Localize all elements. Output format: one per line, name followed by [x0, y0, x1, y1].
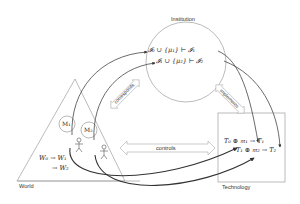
technology-formula-1: T₀ ⊕ 𝔪₁ → T₁: [224, 137, 264, 145]
mental-model-2-label: M₂: [84, 126, 93, 133]
world-label: World: [19, 183, 34, 189]
arc-person1-to-institution: [72, 52, 147, 135]
diagram-canvas: [0, 0, 300, 204]
technology-formula-2: T₁ ⊕ 𝔪₂ → T₂: [236, 146, 276, 154]
arc-person2-to-institution: [94, 63, 155, 140]
institution-world-technology-diagram: Institution World Technology 𝓘₀ ∪ {μ₁} ⊢…: [0, 0, 300, 204]
world-formula-1: W₀ → W₁: [39, 154, 67, 162]
world-formula-2: → W₂: [52, 164, 69, 172]
technology-label: Technology: [222, 184, 250, 190]
person-1-icon: [75, 138, 83, 152]
institution-label: Institution: [171, 16, 195, 22]
institution-formula-2: 𝓘₁ ∪ {μ₂} ⊢ 𝓘₂: [156, 57, 203, 65]
person-2-icon: [100, 145, 108, 159]
mental-model-1-label: M₁: [62, 120, 71, 127]
institution-formula-1: 𝓘₀ ∪ {μ₁} ⊢ 𝓘₁: [148, 46, 195, 54]
arc-person2-to-tech2: [95, 155, 254, 185]
controls-label: controls: [156, 145, 176, 151]
